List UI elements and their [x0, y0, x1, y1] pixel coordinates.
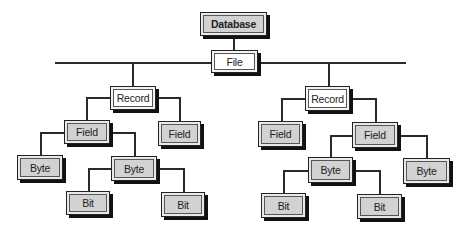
- connector-field-r2-v-left: [330, 135, 332, 157]
- node-record-left: Record: [110, 86, 156, 110]
- connector-byte-l2-v-right: [183, 168, 185, 192]
- node-byte-l1: Byte: [17, 155, 63, 180]
- node-file: File: [211, 50, 258, 73]
- node-bit-l2-label: Bit: [164, 195, 202, 214]
- connector-record-right-v-left: [281, 98, 283, 121]
- node-byte-r1-label: Byte: [311, 160, 350, 180]
- connector-database-file: [233, 36, 235, 50]
- node-field-r2-label: Field: [355, 125, 395, 145]
- node-byte-r2-label: Byte: [406, 161, 447, 181]
- connector-byte-l2-h-left: [88, 168, 111, 170]
- node-field-r2: Field: [352, 122, 398, 148]
- node-byte-l1-label: Byte: [20, 158, 60, 177]
- node-field-l1: Field: [64, 120, 110, 144]
- data-hierarchy-diagram: Database File Record Record Field Field …: [0, 0, 461, 231]
- node-byte-r1: Byte: [308, 157, 353, 183]
- connector-record-left-h-right: [156, 97, 180, 99]
- connector-byte-r1-h-right: [353, 170, 379, 172]
- node-file-label: File: [214, 53, 255, 70]
- connector-field-r2-h-right: [398, 135, 426, 137]
- node-bit-l2: Bit: [161, 192, 205, 217]
- connector-field-l1-v-left: [40, 132, 42, 155]
- connector-record-right-h-left: [281, 98, 305, 100]
- node-bit-r2: Bit: [357, 194, 402, 219]
- node-byte-r2: Byte: [403, 158, 450, 184]
- node-database-label: Database: [203, 15, 264, 33]
- node-bit-r2-label: Bit: [360, 197, 399, 216]
- connector-bus-record-right: [328, 62, 330, 86]
- connector-byte-r1-v-left: [283, 170, 285, 193]
- node-record-right-label: Record: [308, 89, 347, 108]
- connector-byte-l2-v-left: [88, 168, 90, 191]
- node-byte-l2-label: Byte: [114, 159, 154, 178]
- connector-field-r2-h-left: [330, 135, 352, 137]
- node-record-right: Record: [305, 86, 350, 111]
- connector-record-right-h-right: [350, 98, 375, 100]
- node-database: Database: [200, 12, 267, 36]
- node-record-left-label: Record: [113, 89, 153, 107]
- connector-byte-l2-h-right: [157, 168, 183, 170]
- node-field-l2: Field: [158, 121, 201, 146]
- connector-field-l1-v-right: [134, 132, 136, 156]
- connector-field-r2-v-right: [426, 135, 428, 158]
- connector-bus-record-left: [132, 62, 134, 86]
- connector-byte-r1-v-right: [379, 170, 381, 194]
- connector-field-l1-h-right: [110, 132, 134, 134]
- node-byte-l2: Byte: [111, 156, 157, 181]
- connector-record-left-h-left: [86, 97, 110, 99]
- connector-record-left-v-left: [86, 97, 88, 120]
- connector-record-left-v-right: [179, 97, 181, 121]
- node-bit-r1-label: Bit: [264, 196, 303, 215]
- connector-record-right-v-right: [375, 98, 377, 122]
- connector-byte-r1-h-left: [283, 170, 308, 172]
- node-field-l1-label: Field: [67, 123, 107, 141]
- node-field-r1-label: Field: [261, 124, 300, 144]
- node-bit-l1-label: Bit: [69, 194, 107, 212]
- node-field-l2-label: Field: [161, 124, 198, 143]
- node-bit-l1: Bit: [66, 191, 110, 215]
- connector-field-l1-h-left: [40, 132, 64, 134]
- node-bit-r1: Bit: [261, 193, 306, 218]
- node-field-r1: Field: [258, 121, 303, 147]
